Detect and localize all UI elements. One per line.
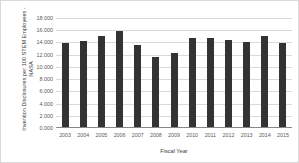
x-axis-tick-label: 2003 [56, 131, 74, 141]
bar[interactable] [171, 53, 178, 128]
y-axis-tick-label: 4.000 [19, 101, 53, 107]
y-axis-tick-label: 18.000 [19, 15, 53, 21]
y-axis-tick-label: 6.000 [19, 88, 53, 94]
x-axis-tick-labels: 2003200420052006200720082009201020112012… [56, 131, 292, 141]
bar-slot [201, 18, 219, 128]
bar[interactable] [279, 43, 286, 128]
x-axis-tick-label: 2006 [110, 131, 128, 141]
bar-slot [110, 18, 128, 128]
bar-slot [219, 18, 237, 128]
x-axis-tick-label: 2010 [183, 131, 201, 141]
x-axis-tick-label: 2013 [238, 131, 256, 141]
bar-slot [256, 18, 274, 128]
bar[interactable] [62, 43, 69, 128]
bar-slot [238, 18, 256, 128]
bar[interactable] [98, 36, 105, 128]
bar-slot [92, 18, 110, 128]
x-axis-tick-label: 2007 [129, 131, 147, 141]
bar[interactable] [225, 40, 232, 128]
y-axis-tick-label: 12.000 [19, 52, 53, 58]
y-axis-tick-label: 2.000 [19, 113, 53, 119]
x-axis-line [56, 127, 292, 128]
y-axis-tick-label: 10.000 [19, 64, 53, 70]
x-axis-tick-label: 2005 [92, 131, 110, 141]
y-axis-tick-label: 8.000 [19, 76, 53, 82]
bar-slot [274, 18, 292, 128]
bar-slot [74, 18, 92, 128]
bar-slot [183, 18, 201, 128]
bar-chart: Invention Disclosures per 100 STEM Emplo… [0, 0, 299, 163]
bar[interactable] [207, 38, 214, 128]
bar[interactable] [261, 36, 268, 128]
plot-area [56, 18, 292, 128]
bar-series [56, 18, 292, 128]
bar[interactable] [80, 41, 87, 128]
x-axis-tick-label: 2014 [256, 131, 274, 141]
bar-slot [56, 18, 74, 128]
bar[interactable] [134, 45, 141, 128]
bar[interactable] [152, 57, 159, 128]
y-axis-tick-label: 14.000 [19, 39, 53, 45]
x-axis-tick-label: 2008 [147, 131, 165, 141]
y-axis-tick-labels: 0.0002.0004.0006.0008.00010.00012.00014.… [20, 14, 55, 130]
x-axis-tick-label: 2011 [201, 131, 219, 141]
bar[interactable] [243, 42, 250, 128]
y-axis-tick-label: 16.000 [19, 27, 53, 33]
bar-slot [129, 18, 147, 128]
x-axis-tick-label: 2015 [274, 131, 292, 141]
y-axis-tick-label: 0.000 [19, 125, 53, 131]
x-axis-tick-label: 2012 [219, 131, 237, 141]
x-axis-title: Fiscal Year [56, 147, 292, 155]
x-axis-tick-label: 2009 [165, 131, 183, 141]
x-axis-tick-label: 2004 [74, 131, 92, 141]
bar-slot [147, 18, 165, 128]
bar[interactable] [116, 31, 123, 128]
bar-slot [165, 18, 183, 128]
bar[interactable] [189, 38, 196, 128]
